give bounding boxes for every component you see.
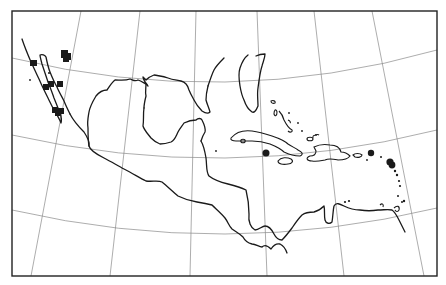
dot-marker: [368, 150, 374, 156]
lesser-antilles-island: [403, 200, 405, 202]
baja-island: [29, 79, 31, 81]
square-marker: [63, 57, 69, 62]
dot-marker: [389, 162, 396, 169]
cozumel: [215, 150, 217, 152]
tobago: [401, 201, 403, 203]
island-speck: [301, 130, 303, 132]
square-marker: [57, 81, 63, 87]
lesser-antilles-island: [394, 170, 396, 172]
lesser-antilles-island: [397, 195, 399, 197]
abc-island: [344, 201, 346, 203]
square-marker: [48, 81, 54, 87]
dot-marker: [263, 150, 270, 157]
lesser-antilles-island: [380, 156, 382, 158]
lesser-antilles-island: [366, 159, 368, 161]
gulf-california-island: [48, 72, 50, 74]
square-marker: [55, 112, 60, 116]
lesser-antilles-island: [396, 174, 398, 176]
island-speck: [288, 112, 290, 114]
island-speck: [315, 134, 317, 136]
lesser-antilles-island: [398, 180, 400, 182]
square-marker: [30, 60, 37, 66]
map-canvas: [0, 0, 446, 285]
abc-island: [348, 200, 350, 202]
island-speck: [297, 122, 299, 124]
lesser-antilles-island: [399, 185, 401, 187]
island-speck: [312, 136, 314, 138]
